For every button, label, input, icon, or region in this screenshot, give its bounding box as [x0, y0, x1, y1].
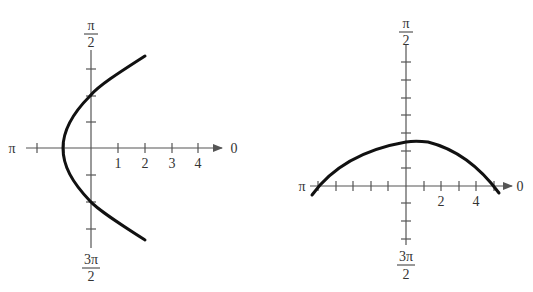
left-tick-label-1: 1 — [115, 156, 122, 171]
left-tick-label-2: 2 — [142, 156, 149, 171]
right-label-pi: π — [298, 179, 305, 194]
svg-text:3π: 3π — [84, 252, 98, 267]
right-tick-label-4: 4 — [473, 194, 480, 209]
svg-text:2: 2 — [88, 35, 95, 50]
right-tick-label-2: 2 — [438, 194, 445, 209]
right-graph: 2 4 0 π π 2 3π 2 — [298, 16, 523, 282]
svg-text:2: 2 — [403, 267, 410, 282]
svg-text:2: 2 — [403, 33, 410, 48]
svg-text:π: π — [87, 18, 94, 33]
polar-graphs: 1 2 3 4 0 π π 2 3π 2 — [0, 0, 533, 292]
right-label-zero: 0 — [517, 179, 524, 194]
left-label-zero: 0 — [231, 141, 238, 156]
left-graph: 1 2 3 4 0 π π 2 3π 2 — [8, 18, 237, 284]
right-label-pi-over-2: π 2 — [399, 16, 413, 48]
left-label-pi: π — [8, 141, 15, 156]
left-tick-label-4: 4 — [195, 156, 202, 171]
svg-text:2: 2 — [88, 269, 95, 284]
svg-text:3π: 3π — [399, 249, 413, 264]
left-tick-label-3: 3 — [169, 156, 176, 171]
svg-text:π: π — [402, 16, 409, 31]
right-label-3pi-over-2: 3π 2 — [397, 249, 415, 282]
left-label-pi-over-2: π 2 — [84, 18, 98, 50]
left-label-3pi-over-2: 3π 2 — [82, 252, 100, 284]
